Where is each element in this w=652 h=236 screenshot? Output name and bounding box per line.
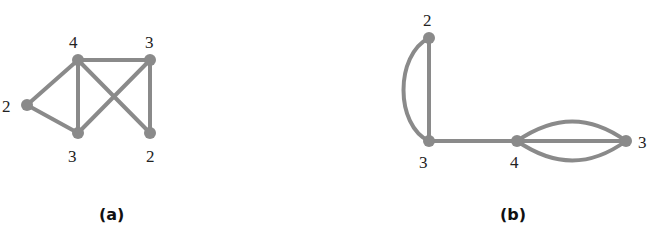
caption-b: (b) — [500, 205, 526, 224]
vertex — [620, 135, 632, 147]
degree-label: 3 — [419, 153, 428, 172]
degree-label: 3 — [638, 133, 647, 152]
degree-label: 3 — [68, 147, 77, 166]
degree-label: 2 — [146, 147, 155, 166]
edge — [517, 141, 626, 161]
graph-a: 4 3 2 3 2 (a) — [2, 33, 156, 224]
edge — [517, 122, 626, 142]
degree-label: 2 — [2, 97, 11, 116]
vertex — [511, 135, 523, 147]
edge — [27, 105, 78, 133]
graph-figure: 4 3 2 3 2 (a) 2 3 4 3 (b) — [0, 0, 652, 236]
edge — [404, 38, 430, 141]
vertex — [72, 127, 84, 139]
degree-label: 3 — [145, 33, 154, 52]
vertex — [72, 54, 84, 66]
degree-label: 4 — [69, 33, 78, 52]
degree-label: 4 — [510, 153, 519, 172]
vertex — [144, 54, 156, 66]
degree-label: 2 — [423, 11, 432, 30]
vertex — [144, 127, 156, 139]
caption-a: (a) — [99, 205, 124, 224]
graph-b: 2 3 4 3 (b) — [404, 11, 647, 224]
vertex — [21, 99, 33, 111]
edge — [27, 60, 78, 105]
vertex — [423, 32, 435, 44]
vertex — [423, 135, 435, 147]
